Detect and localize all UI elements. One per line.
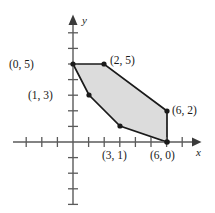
vertex-dot-0-5 — [70, 61, 75, 66]
point-label-6-0: (6, 0) — [150, 149, 175, 161]
coordinate-plane-figure: (0, 5) (2, 5) (1, 3) (6, 2) (3, 1) (6, 0… — [0, 0, 215, 213]
point-label-0-5: (0, 5) — [9, 58, 34, 70]
vertex-dot-1-3 — [86, 92, 91, 97]
vertex-dot-6-0 — [164, 139, 170, 145]
point-label-1-3: (1, 3) — [28, 89, 53, 101]
x-axis-label: x — [196, 146, 201, 158]
point-label-6-2: (6, 2) — [172, 104, 197, 116]
vertex-dot-2-5 — [101, 61, 106, 66]
y-axis-label: y — [82, 14, 87, 26]
point-label-2-5: (2, 5) — [110, 54, 135, 66]
y-axis-arrowhead — [69, 15, 78, 26]
point-label-3-1: (3, 1) — [102, 149, 127, 161]
vertex-dot-6-2 — [164, 108, 169, 113]
shaded-polygon-region — [73, 64, 167, 142]
vertex-dot-3-1 — [117, 123, 122, 128]
